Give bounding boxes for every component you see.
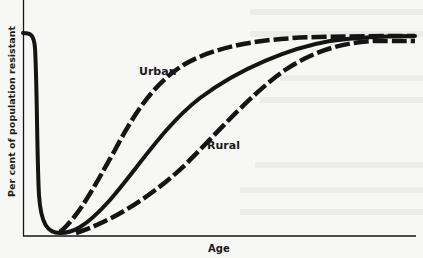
- urban-label: Urban: [139, 65, 177, 78]
- urban-curve: [60, 36, 415, 232]
- rural-label: Rural: [207, 139, 240, 152]
- x-axis-label: Age: [208, 243, 230, 254]
- y-axis-label: Per cent of population resistant: [6, 26, 17, 197]
- resistance-by-age-chart: Urban Rural Age Per cent of population r…: [0, 0, 423, 258]
